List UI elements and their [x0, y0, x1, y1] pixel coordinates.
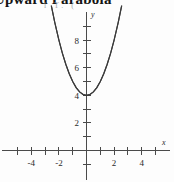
x-tick-label-neg4: -4	[28, 158, 36, 168]
parabola-graph-screenshot: Upward Parabola l T. (	[0, 0, 174, 182]
y-tick-label-8: 8	[75, 36, 80, 46]
x-tick-label-2: 2	[112, 158, 117, 168]
x-tick-label-4: 4	[139, 158, 144, 168]
y-axis-label: y	[90, 10, 95, 19]
y-tick-label-4: 4	[75, 91, 80, 101]
y-tick-label-6: 6	[75, 63, 80, 73]
x-tick-label-neg2: -2	[55, 158, 63, 168]
x-axis-label: x	[161, 138, 166, 147]
y-tick-label-2: 2	[75, 118, 80, 128]
coordinate-plot: -4 -2 2 4 2 4 6 8 y x	[0, 0, 174, 182]
